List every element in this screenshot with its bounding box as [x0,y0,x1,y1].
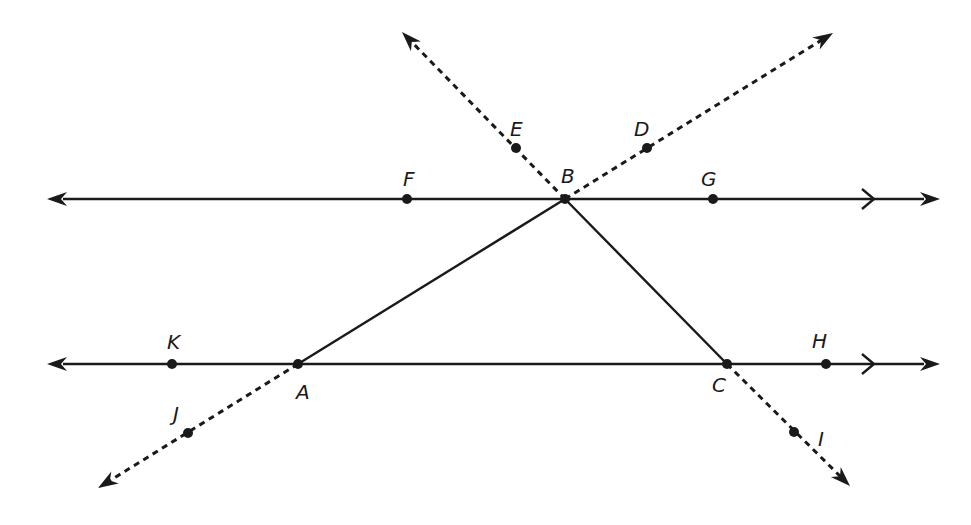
ray-arrowhead-icon [812,33,833,49]
points [167,143,831,438]
geometry-diagram: ABCDEFGHIJK [0,0,971,525]
label-G: G [701,167,717,191]
ray-BE [410,41,565,199]
label-K: K [167,330,182,354]
point-E [511,143,521,153]
point-C [722,359,732,369]
segment-BC [565,199,727,364]
ray-arrowhead-icon [98,472,119,488]
label-A: A [294,380,310,404]
point-H [821,359,831,369]
point-F [402,194,412,204]
point-K [167,359,177,369]
label-I: I [818,427,824,451]
ray-arrowhead-icon [831,467,850,486]
label-B: B [561,164,575,188]
point-D [642,143,652,153]
point-labels: ABCDEFGHIJK [167,117,827,451]
label-J: J [169,402,179,426]
segment-AB [298,199,565,364]
point-G [708,194,718,204]
point-A [293,359,303,369]
ray-BD [565,39,823,199]
point-B [560,194,570,204]
ray-AJ [108,364,298,482]
label-C: C [712,373,726,397]
point-I [789,427,799,437]
label-E: E [510,117,523,141]
ray-CI [727,364,841,478]
parallel-lines [47,189,940,374]
label-D: D [634,117,649,141]
label-H: H [812,329,827,353]
label-F: F [403,167,415,191]
triangle-ABC [298,199,727,364]
point-J [183,428,193,438]
transversal-rays [98,32,850,488]
